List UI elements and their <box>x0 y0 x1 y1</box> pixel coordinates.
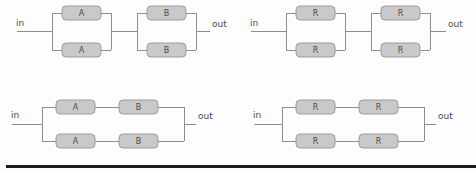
component-top-left-1[interactable]: A <box>62 6 101 20</box>
wires-bottom-left <box>12 107 196 141</box>
component-top-left-3[interactable]: B <box>147 6 186 20</box>
component-bottom-left-4[interactable]: B <box>119 134 158 148</box>
component-bottom-left-1[interactable]: A <box>56 100 95 114</box>
component-label: R <box>398 46 404 55</box>
output-port-label: out <box>448 19 463 29</box>
input-port-label: in <box>11 110 19 120</box>
output-port-label: out <box>212 19 227 29</box>
component-top-right-4[interactable]: R <box>381 43 420 57</box>
output-port-label: out <box>198 111 213 121</box>
component-label: R <box>398 9 404 18</box>
component-top-left-2[interactable]: A <box>62 43 101 57</box>
component-label: B <box>136 137 142 146</box>
input-port-label: in <box>253 110 261 120</box>
component-bottom-left-3[interactable]: A <box>56 134 95 148</box>
circuit-figure: A A B B in out <box>0 0 476 173</box>
component-label: A <box>79 9 85 18</box>
bottom-rule <box>0 161 476 173</box>
component-top-right-3[interactable]: R <box>381 6 420 20</box>
input-port-label: in <box>16 18 24 28</box>
component-bottom-left-2[interactable]: B <box>119 100 158 114</box>
component-label: A <box>79 46 85 55</box>
component-label: B <box>136 103 142 112</box>
diagram-bottom-right: R R R R in out <box>238 93 476 168</box>
component-label: B <box>164 46 170 55</box>
component-label: R <box>313 103 319 112</box>
diagram-top-right: R R R R in out <box>238 0 476 88</box>
diagram-top-left: A A B B in out <box>0 0 238 88</box>
component-bottom-right-1[interactable]: R <box>296 100 335 114</box>
diagram-bottom-left: A B A B in out <box>0 93 238 168</box>
component-top-right-1[interactable]: R <box>296 6 335 20</box>
component-label: R <box>313 46 319 55</box>
component-label: A <box>73 103 79 112</box>
component-label: R <box>376 103 382 112</box>
output-port-label: out <box>438 111 453 121</box>
component-label: R <box>313 9 319 18</box>
component-label: B <box>164 9 170 18</box>
component-label: R <box>376 137 382 146</box>
component-label: A <box>73 137 79 146</box>
component-top-left-4[interactable]: B <box>147 43 186 57</box>
wires-bottom-right <box>254 107 436 141</box>
component-label: R <box>313 137 319 146</box>
component-bottom-right-3[interactable]: R <box>296 134 335 148</box>
component-bottom-right-4[interactable]: R <box>359 134 398 148</box>
input-port-label: in <box>250 18 258 28</box>
component-bottom-right-2[interactable]: R <box>359 100 398 114</box>
component-top-right-2[interactable]: R <box>296 43 335 57</box>
